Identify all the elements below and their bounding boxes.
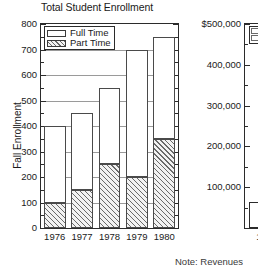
right-y-axis-minor-tick (245, 167, 248, 168)
figure-note: Note: Revenues (175, 256, 243, 267)
right-y-axis-minor-tick (245, 85, 248, 86)
right-legend-swatch-2 (251, 35, 258, 41)
right-y-axis-minor-tick (245, 208, 248, 209)
y-axis-minor-tick (175, 113, 178, 114)
right-y-axis-minor-tick (245, 44, 248, 45)
y-axis-tick (41, 228, 46, 229)
right-y-axis-minor-tick (245, 126, 248, 127)
bar-group[interactable] (126, 24, 148, 228)
x-axis-tick-label: 1980 (154, 231, 175, 242)
right-y-axis-tick-label: 400,000 (207, 60, 241, 70)
y-axis-minor-tick (175, 62, 178, 63)
bar-group[interactable] (71, 24, 93, 228)
bar-segment-part-time[interactable] (71, 190, 93, 228)
bar-segment-part-time[interactable] (153, 139, 175, 228)
y-axis-minor-tick (175, 37, 178, 38)
bar-group[interactable] (153, 24, 175, 228)
page-title: Total Student Enrollment (22, 1, 172, 13)
figure-container: Total Student Enrollment Fall Enrollment… (0, 0, 258, 267)
right-y-axis-tick (245, 187, 250, 188)
right-y-axis-tick (245, 65, 250, 66)
bar-segment-full-time[interactable] (153, 37, 175, 139)
right-legend-swatch-1 (251, 28, 258, 34)
y-axis-tick-label: 0 (32, 223, 37, 233)
bar-segment-full-time[interactable] (99, 88, 121, 165)
right-y-axis-tick (245, 24, 250, 25)
bar-segment-full-time[interactable] (126, 50, 148, 178)
y-axis-minor-tick (175, 88, 178, 89)
bar-segment-full-time[interactable] (71, 113, 93, 190)
right-y-axis-tick (245, 146, 250, 147)
right-y-axis-tick-label: 200,000 (207, 142, 241, 152)
plot-area: Full Time Part Time 01002003004005006007… (40, 23, 179, 229)
y-axis-tick (173, 228, 178, 229)
x-axis-tick-label: 1977 (72, 231, 93, 242)
bar-group[interactable] (99, 24, 121, 228)
bar-group[interactable] (44, 24, 66, 228)
right-x-axis-tick-label: 1 (256, 231, 258, 242)
right-y-axis-tick-label: 100,000 (207, 182, 241, 192)
right-y-axis-tick (245, 106, 250, 107)
y-axis-tick-label: 200 (21, 172, 37, 182)
right-plot-area: $500,000400,000300,000200,000100,0001 (244, 23, 258, 229)
total-student-enrollment-chart: Total Student Enrollment Fall Enrollment… (0, 0, 186, 250)
bar-segment-full-time[interactable] (44, 126, 66, 203)
y-axis-tick-label: 300 (21, 147, 37, 157)
y-axis-tick-label: 100 (21, 198, 37, 208)
y-axis-tick-label: 600 (21, 70, 37, 80)
bar-segment-part-time[interactable] (99, 164, 121, 228)
right-chart-legend (249, 26, 258, 44)
x-axis-tick-label: 1979 (126, 231, 147, 242)
bar-segment-part-time[interactable] (126, 177, 148, 228)
right-y-axis-tick-label: 300,000 (207, 101, 241, 111)
bar-segment-part-time[interactable] (44, 203, 66, 229)
y-axis-tick-label: 700 (21, 45, 37, 55)
y-axis-minor-tick (175, 215, 178, 216)
y-axis-minor-tick (175, 190, 178, 191)
right-chart-bottom-legend (249, 202, 258, 228)
y-axis-tick-label: 800 (21, 19, 37, 29)
y-axis-tick-label: 400 (21, 121, 37, 131)
y-axis-minor-tick (175, 139, 178, 140)
y-axis-minor-tick (175, 164, 178, 165)
y-axis-tick-label: 500 (21, 96, 37, 106)
x-axis-tick-label: 1978 (99, 231, 120, 242)
x-axis-tick-label: 1976 (44, 231, 65, 242)
right-y-axis-tick-label: $500,000 (201, 19, 241, 29)
revenues-chart-partial: $500,000400,000300,000200,000100,0001 (186, 0, 258, 250)
